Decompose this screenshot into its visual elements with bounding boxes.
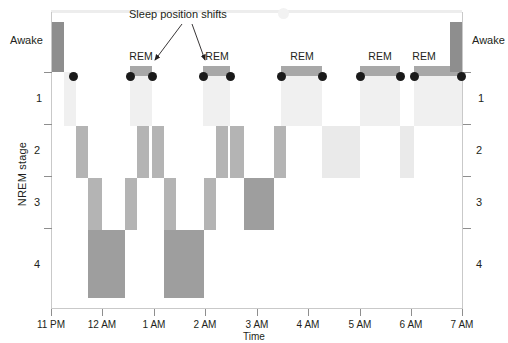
segment-stage4-3 [244,178,274,230]
position-shift-marker-5 [226,72,235,81]
y-tick-right-2 [463,176,471,177]
position-shift-marker-8 [356,72,365,81]
x-tick-12am [102,309,103,316]
segment-stage3-3 [164,178,176,230]
segment-stage1-4 [281,76,322,126]
segment-stage1-6 [414,76,462,126]
position-shift-marker-4 [199,72,208,81]
segment-stage2-plateau-2 [400,126,414,178]
y-label-stage-3-left: 3 [34,196,40,208]
position-shift-marker-7 [318,72,327,81]
segment-stage1-3 [203,76,230,126]
position-shift-marker-3 [148,72,157,81]
position-shift-marker-11 [457,72,466,81]
segment-stage2-4 [216,126,228,178]
segment-stage4-1 [88,230,125,298]
segment-stage2-6 [274,126,286,178]
segment-stage2-2 [137,126,149,178]
x-tick-1am [154,309,155,316]
x-label-12am: 12 AM [72,319,132,330]
y-label-stage-1-right: 1 [478,92,484,104]
x-tick-2am [205,309,206,316]
y-label-awake-right: Awake [472,34,505,46]
y-label-stage-4-right: 4 [476,258,482,270]
figure-top-artifact [278,8,289,19]
y-tick-left-1 [44,124,52,125]
y-axis-right [462,12,463,308]
x-label-2am: 2 AM [175,319,235,330]
sleep-hypnogram-chart: Awake 1 2 3 4 Awake 1 2 3 4 NREM stage 1… [0,0,508,343]
rem-label-5: REM [399,50,449,62]
segment-stage3-1 [88,178,102,230]
rem-label-4: REM [355,50,405,62]
x-tick-5am [360,309,361,316]
x-axis-title: Time [0,331,508,342]
x-tick-11pm [51,309,52,316]
position-shift-marker-1 [69,72,78,81]
y-tick-right-3 [463,228,471,229]
segment-awake-end [450,22,462,72]
segment-stage1-5 [360,76,400,126]
rem-label-2: REM [192,50,242,62]
segment-stage3-2 [125,178,137,230]
rem-label-3: REM [277,50,327,62]
y-label-stage-3-right: 3 [476,196,482,208]
y-tick-left-2 [44,176,52,177]
x-tick-4am [308,309,309,316]
position-shift-marker-10 [410,72,419,81]
y-tick-left-rem [44,72,52,73]
x-tick-6am [411,309,412,316]
segment-stage2-1 [76,126,88,178]
rem-label-1: REM [116,50,166,62]
y-label-stage-4-left: 4 [34,258,40,270]
figure-top-rule [51,10,462,13]
y-label-stage-2-left: 2 [34,144,40,156]
y-label-awake-left: Awake [10,34,43,46]
segment-awake-start [52,22,64,72]
x-label-4am: 4 AM [278,319,338,330]
segment-stage2-plateau-1 [322,126,360,178]
x-label-7am: 7 AM [432,319,492,330]
position-shift-marker-9 [396,72,405,81]
y-axis-title: NREM stage [16,124,28,224]
x-tick-7am [462,309,463,316]
position-shift-marker-6 [277,72,286,81]
x-tick-3am [257,309,258,316]
annotation-sleep-position-shifts: Sleep position shifts [129,8,227,20]
segment-rem-3 [281,66,322,76]
y-tick-right-1 [463,124,471,125]
segment-rem-4 [360,66,400,76]
y-label-stage-1-left: 1 [36,92,42,104]
segment-stage2-3 [152,126,164,178]
y-label-stage-2-right: 2 [476,144,482,156]
segment-stage3-4 [204,178,216,230]
y-tick-left-3 [44,228,52,229]
segment-stage4-2 [164,230,204,298]
segment-stage2-5 [230,126,244,178]
position-shift-marker-2 [126,72,135,81]
segment-stage1-2 [130,76,152,126]
